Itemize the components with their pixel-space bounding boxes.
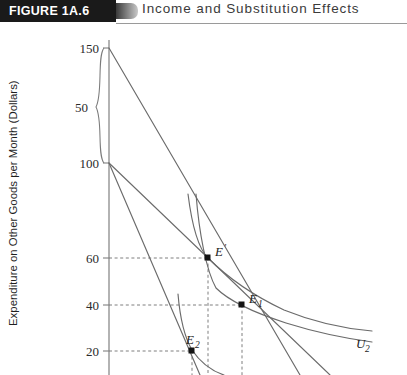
point-label-e2-text: E <box>185 332 194 347</box>
figure-container: FIGURE 1A.6 Income and Substitution Effe… <box>0 0 407 375</box>
point-label-e2-sub: 2 <box>195 340 200 350</box>
header-divider <box>116 23 407 24</box>
curve-label-u2: U 2 <box>356 336 370 354</box>
y-tick-label-150: 150 <box>80 41 100 56</box>
point-label-e2: E 2 <box>185 332 200 350</box>
brace-label-50: 50 <box>75 100 88 115</box>
figure-header: FIGURE 1A.6 Income and Substitution Effe… <box>0 0 407 26</box>
point-label-e-prime-sub: ' <box>224 243 227 253</box>
y-tick-label-20: 20 <box>86 344 99 359</box>
y-tick-label-100: 100 <box>80 156 100 171</box>
y-axis-ticks <box>103 48 109 351</box>
point-label-e-prime-text: E <box>214 244 223 259</box>
point-label-e-prime: E ' <box>214 243 227 259</box>
point-marker-e-prime <box>205 255 211 261</box>
indifference-curve-u1 <box>188 194 372 331</box>
point-marker-e2 <box>189 348 195 354</box>
y-tick-label-60: 60 <box>86 251 99 266</box>
point-label-e1: E 1 <box>248 291 263 309</box>
figure-tab-shadow-decoration <box>116 3 138 19</box>
budget-line-150 <box>109 48 300 375</box>
indifference-curve-u2 <box>196 194 372 342</box>
figure-number-box: FIGURE 1A.6 <box>0 0 116 22</box>
chart-plot-area: Expenditure on Other Goods per Month (Do… <box>0 26 407 375</box>
y-tick-label-40: 40 <box>86 298 99 313</box>
point-marker-e1 <box>239 302 245 308</box>
figure-title: Income and Substitution Effects <box>142 1 360 16</box>
y-axis-title: Expenditure on Other Goods per Month (Do… <box>7 80 19 326</box>
point-label-e1-text: E <box>248 291 257 306</box>
curve-label-u2-sub: 2 <box>365 344 370 354</box>
indifference-curve-lower <box>178 294 224 375</box>
income-effect-brace <box>96 48 104 163</box>
figure-number-label: FIGURE 1A.6 <box>9 4 89 18</box>
point-label-e1-sub: 1 <box>258 299 263 309</box>
